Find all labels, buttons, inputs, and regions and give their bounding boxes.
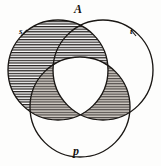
label-p: p <box>73 145 79 157</box>
venn-diagram-figure: A p s t <box>0 0 161 166</box>
label-a: A <box>74 3 82 15</box>
venn-diagram-canvas <box>0 0 161 166</box>
label-s: s <box>19 27 23 36</box>
label-t: t <box>130 27 133 36</box>
